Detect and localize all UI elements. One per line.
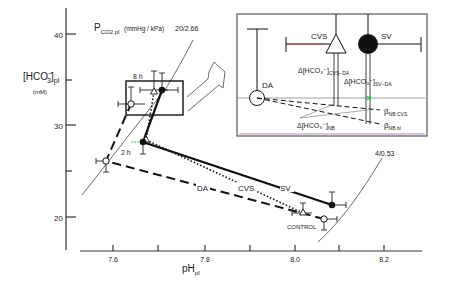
svg-text:PCO2 pl: PCO2 pl — [94, 22, 119, 35]
label-control: CONTROL — [287, 224, 317, 230]
inset-label-da: DA — [262, 81, 274, 90]
x-tick-8-0: 8.0 — [290, 256, 300, 263]
isopleth-4mmHg — [318, 158, 382, 242]
y-axis — [66, 8, 76, 250]
zoom-arrow — [187, 62, 225, 111]
inset-diagram: DA CVS SV Δ[HCO₃⁻]CVS−DA Δ[HCO₃⁻]SV−DA Δ… — [237, 14, 427, 136]
svg-text:20/2.66: 20/2.66 — [175, 25, 198, 32]
marker-da-8h — [128, 101, 134, 107]
y-tick-40: 40 — [54, 31, 63, 40]
marker-cvs-8h — [151, 88, 158, 94]
pco2-low-label: 4/0.53 — [375, 150, 395, 157]
inset-label-sv: SV — [381, 32, 392, 41]
label-sv: SV — [280, 184, 291, 193]
y-axis-title: [HCO−3]pl (mM) — [23, 70, 60, 95]
y-tick-20: 20 — [54, 214, 63, 223]
y-axis-unit: (mM) — [33, 89, 47, 95]
x-tick-8-2: 8.2 — [379, 256, 389, 263]
pco2-isopleth-label: PCO2 pl (mmHg / kPa) 20/2.66 — [94, 22, 198, 35]
marker-sv-control — [329, 202, 336, 209]
isopleth-20mmHg — [82, 40, 193, 195]
svg-text:[HCO−3]pl: [HCO−3]pl — [23, 70, 60, 85]
y-tick-30: 30 — [54, 122, 63, 131]
marker-da-control — [321, 216, 327, 222]
label-da: DA — [197, 184, 209, 193]
x-axis-title: pHpl — [182, 263, 199, 276]
svg-text:(mmHg / kPa): (mmHg / kPa) — [124, 25, 164, 33]
marker-da-2h — [103, 158, 109, 164]
label-cvs: CVS — [238, 184, 254, 193]
x-tick-7-6: 7.6 — [108, 256, 118, 263]
x-axis — [80, 245, 422, 251]
chart-canvas: 40 30 20 7.6 7.8 8.0 8.2 [HCO−3]pl (mM) … — [0, 0, 450, 289]
marker-sv-2h — [140, 139, 147, 146]
label-2h: 2 h — [121, 149, 131, 156]
svg-text:pHpl: pHpl — [182, 263, 199, 276]
marker-sv-8h — [159, 87, 166, 94]
inset-label-cvs: CVS — [311, 32, 327, 41]
marker-cvs-control — [300, 209, 307, 215]
x-tick-7-8: 7.8 — [200, 256, 210, 263]
label-8h: 8 h — [133, 73, 143, 80]
